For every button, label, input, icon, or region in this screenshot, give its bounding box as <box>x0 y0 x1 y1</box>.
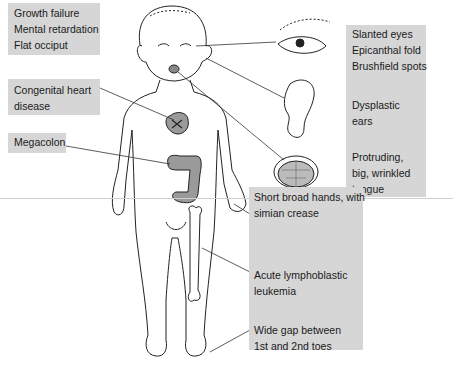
colon-icon <box>168 155 202 202</box>
eye-detail-icon <box>278 19 330 53</box>
label-heart: Congenital heart disease <box>8 79 100 115</box>
label-colon: Megacolon <box>8 133 66 153</box>
label-leukemia: Acute lymphoblastic leukemia <box>254 267 347 299</box>
label-head: Growth failure Mental retardation Flat o… <box>8 3 100 55</box>
label-right-panel: Slanted eyes Epicanthal fold Brushfield … <box>346 25 426 197</box>
label-bottom-panel: Short broad hands, with simian crease Ac… <box>249 187 363 350</box>
ear-detail-icon <box>284 80 314 137</box>
label-toes: Wide gap between 1st and 2nd toes <box>254 322 341 354</box>
page-divider <box>0 198 453 199</box>
label-ears: Dysplastic ears <box>352 97 400 129</box>
label-eyes: Slanted eyes Epicanthal fold Brushfield … <box>352 26 427 74</box>
femur-bone-icon <box>188 206 201 301</box>
label-hands: Short broad hands, with simian crease <box>254 189 365 221</box>
tongue-detail-icon <box>274 156 318 188</box>
mouth-icon <box>169 65 179 73</box>
